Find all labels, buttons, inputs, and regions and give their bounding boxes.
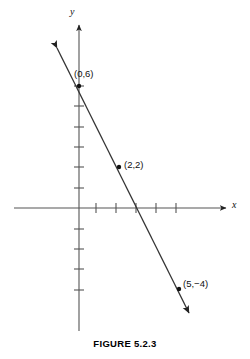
point-label-0-6: (0,6) [74, 68, 94, 79]
data-point-5-minus4 [177, 287, 181, 291]
point-label-2-2: (2,2) [124, 159, 144, 170]
plotted-line [57, 48, 189, 313]
data-point-2-2 [117, 165, 121, 169]
x-axis [14, 203, 226, 213]
point-label-5-minus4: (5,−4) [183, 278, 208, 289]
x-axis-label: x [232, 199, 236, 210]
data-point-0-6 [77, 84, 81, 88]
figure-container: (0,6) (2,2) (5,−4) y x FIGURE 5.2.3 [0, 0, 250, 359]
coordinate-plane-graphic [0, 0, 250, 359]
figure-caption: FIGURE 5.2.3 [0, 338, 250, 349]
y-axis-label: y [70, 6, 74, 17]
data-points [77, 84, 181, 291]
